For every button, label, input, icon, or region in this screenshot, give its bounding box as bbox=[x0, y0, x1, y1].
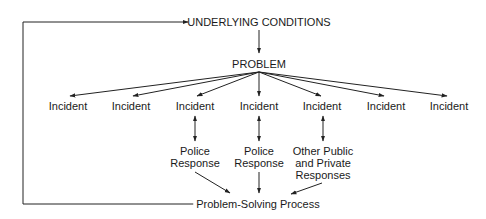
response-1-to-process-arrow bbox=[195, 172, 230, 193]
incident-node-4: Incident bbox=[240, 100, 279, 112]
incident-node-1: Incident bbox=[49, 100, 88, 112]
response-line-3: Responses bbox=[293, 169, 354, 181]
problem-to-incident-1-arrow bbox=[70, 72, 259, 96]
incident-node-6: Incident bbox=[367, 100, 406, 112]
police-response-node-2: Police Response bbox=[234, 145, 284, 169]
incident-node-3: Incident bbox=[176, 100, 215, 112]
problem-solving-process-node: Problem-Solving Process bbox=[193, 198, 323, 210]
feedback-loop-line bbox=[23, 22, 196, 204]
underlying-conditions-node: UNDERLYING CONDITIONS bbox=[187, 16, 330, 28]
problem-to-incident-2-arrow bbox=[133, 72, 259, 96]
police-response-node-1: Police Response bbox=[170, 145, 220, 169]
response-line-2: Response bbox=[170, 157, 220, 169]
problem-to-incident-6-arrow bbox=[259, 72, 384, 96]
response-line-2: Response bbox=[234, 157, 284, 169]
problem-to-incident-7-arrow bbox=[259, 72, 447, 96]
response-line-2: and Private bbox=[293, 157, 354, 169]
incident-node-7: Incident bbox=[430, 100, 469, 112]
response-3-to-process-arrow bbox=[291, 183, 322, 194]
response-line-1: Police bbox=[234, 145, 284, 157]
response-line-1: Police bbox=[170, 145, 220, 157]
incident-node-2: Incident bbox=[112, 100, 151, 112]
other-responses-node: Other Public and Private Responses bbox=[293, 145, 354, 181]
response-line-1: Other Public bbox=[293, 145, 354, 157]
incident-node-5: Incident bbox=[303, 100, 342, 112]
problem-node: PROBLEM bbox=[232, 58, 286, 70]
